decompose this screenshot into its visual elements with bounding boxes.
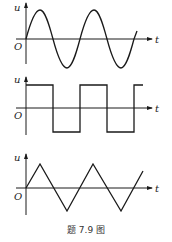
y-axis-label: u [14,74,20,85]
waveform-figure: u t O u t O u t O 题 7.9 图 [0,0,172,242]
origin-label: O [14,110,22,121]
y-axis-label: u [14,2,20,13]
origin-label: O [14,41,22,52]
y-axis-label: u [14,152,20,163]
x-axis-label: t [155,103,160,114]
figure-caption: 题 7.9 图 [67,225,105,235]
x-axis-label: t [155,34,160,45]
x-axis-label: t [155,183,160,194]
sine-panel: u t O [14,2,160,68]
triangle-panel: u t O [14,152,160,215]
square-panel: u t O [14,74,160,135]
origin-label: O [14,191,22,202]
